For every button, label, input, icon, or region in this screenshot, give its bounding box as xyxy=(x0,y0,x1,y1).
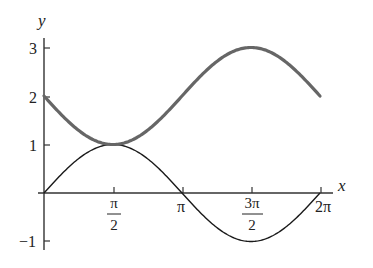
x-tick-label-pi-half: π 2 xyxy=(107,195,121,233)
y-tick-label-1: 1 xyxy=(29,137,37,154)
function-plot: y x 3 2 1 −1 π 2 π 3π 2 2π xyxy=(0,0,373,268)
y-axis-label: y xyxy=(36,11,46,30)
x-ticks xyxy=(114,187,321,193)
x-axis-label: x xyxy=(337,176,346,195)
two-minus-sin-curve xyxy=(44,48,320,145)
y-tick-label-2: 2 xyxy=(29,89,37,106)
y-tick-label-neg1: −1 xyxy=(19,233,36,250)
y-tick-label-3: 3 xyxy=(29,40,37,57)
svg-text:π: π xyxy=(110,195,118,211)
axes xyxy=(38,38,333,250)
x-tick-label-two-pi: 2π xyxy=(315,198,331,215)
svg-text:3π: 3π xyxy=(244,195,260,211)
y-ticks xyxy=(44,48,50,241)
x-tick-label-three-pi-half: 3π 2 xyxy=(242,195,263,233)
svg-text:2: 2 xyxy=(248,217,256,233)
x-tick-label-pi: π xyxy=(177,198,185,215)
svg-text:2: 2 xyxy=(110,217,118,233)
